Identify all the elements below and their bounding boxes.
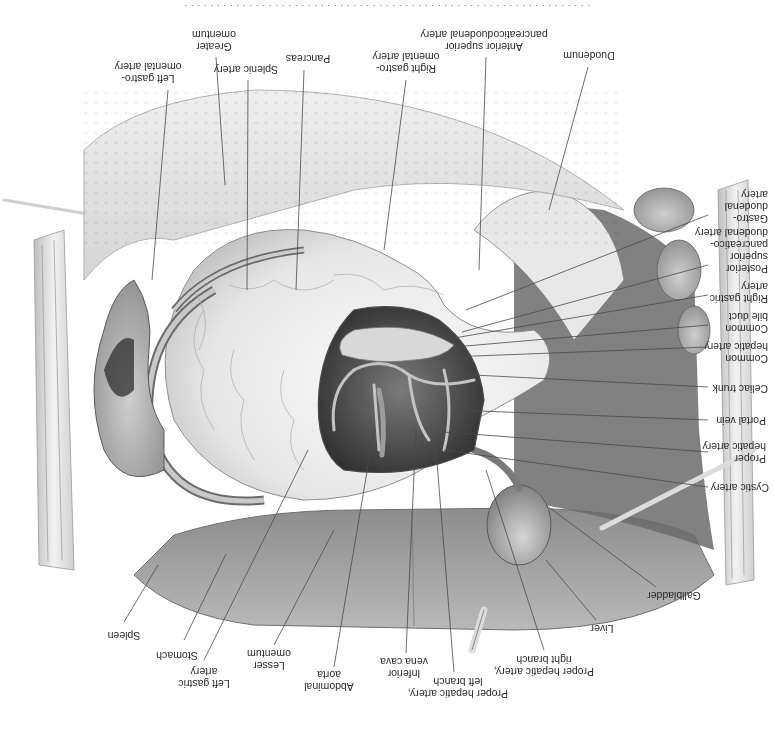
label-posterior-superior-pancreaticoduodenal-artery: Posterior superior pancreatico- duodenal… [695, 227, 768, 275]
label-splenic-artery: Splenic artery [214, 64, 278, 76]
label-right-gastroomental-artery: Right gastro- omental artery [372, 51, 439, 75]
figure-caption-cutoff: · · · · · · · · · · · · · · · · · · · · … [0, 0, 774, 12]
label-greater-omentum: Greater omentum [192, 29, 236, 53]
label-proper-hepatic-left-branch: Proper hepatic artery, left branch [408, 676, 508, 700]
label-proper-hepatic-artery: Proper hepatic artery [702, 441, 766, 465]
anatomy-figure: Spleen Stomach Left gastric artery Lesse… [0, 0, 774, 750]
label-common-bile-duct: Common bile duct [725, 311, 768, 335]
label-pancreas: Pancreas [286, 53, 330, 65]
label-proper-hepatic-right-branch: Proper hepatic artery, right branch [494, 654, 594, 678]
label-portal-vein: Portal vein [716, 415, 766, 427]
label-gastroduodenal-artery: Gastro- duodenal artery [725, 189, 768, 225]
label-liver: Liver [591, 623, 614, 635]
label-anterior-superior-pancreaticoduodenal-artery: Anterior superior pancreaticoduodenal ar… [420, 29, 547, 53]
label-left-gastroomental-artery: Left gastro- omental artery [114, 61, 181, 85]
label-duodenum: Duodenum [563, 50, 614, 62]
label-celiac-trunk: Celiac trunk [713, 383, 768, 395]
label-stomach: Stomach [156, 650, 197, 662]
label-gallbladder: Gallbladder [647, 590, 701, 602]
label-right-gastric-artery: Right gastric artery [710, 281, 768, 305]
label-left-gastric-artery: Left gastric artery [178, 666, 229, 690]
label-spleen: Spleen [108, 630, 141, 642]
label-lesser-omentum: Lesser omentum [247, 648, 291, 672]
label-common-hepatic-artery: Common hepatic artery [704, 341, 768, 365]
label-abdominal-aorta: Abdominal aorta [304, 669, 354, 693]
label-cystic-artery: Cystic artery [711, 482, 769, 494]
